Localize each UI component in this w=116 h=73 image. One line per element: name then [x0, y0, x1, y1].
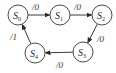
transition-label-s2-s3: /0 — [96, 34, 105, 44]
state-label-subscript: 1 — [60, 16, 63, 22]
state-node-s2: S2 — [92, 5, 112, 25]
state-node-s1: S1 — [50, 5, 70, 25]
state-diagram: /0/0/0/0/1 S0S1S2S3S4 — [0, 0, 116, 73]
state-label-subscript: 3 — [83, 53, 86, 59]
state-node-s0: S0 — [8, 5, 28, 25]
transition-label-s4-s0: /1 — [9, 32, 17, 42]
transition-label-s3-s4: /0 — [55, 60, 64, 70]
state-node-s3: S3 — [73, 42, 93, 62]
state-label-subscript: 0 — [18, 16, 21, 22]
state-label-subscript: 2 — [102, 16, 105, 22]
transition-arrow-s4-s0 — [22, 25, 31, 44]
state-node-s4: S4 — [25, 43, 45, 63]
transition-label-s0-s1: /0 — [31, 2, 40, 12]
transition-arrow-s3-s4 — [46, 52, 74, 53]
state-label-subscript: 4 — [35, 54, 38, 60]
transition-arrow-s2-s3 — [88, 24, 98, 43]
transition-label-s1-s2: /0 — [73, 2, 82, 12]
